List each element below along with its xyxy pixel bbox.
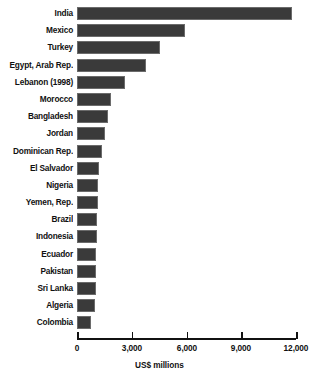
bar-rows: IndiaMexicoTurkeyEgypt, Arab Rep.Lebanon… [0, 7, 319, 334]
bar-row: Morocco [0, 93, 319, 110]
bar [77, 59, 146, 72]
bar-row: Turkey [0, 41, 319, 58]
x-axis-tick-label: 12,000 [284, 343, 309, 353]
bar [77, 76, 125, 89]
plot-area: IndiaMexicoTurkeyEgypt, Arab Rep.Lebanon… [0, 0, 319, 340]
bar-chart: IndiaMexicoTurkeyEgypt, Arab Rep.Lebanon… [0, 0, 319, 380]
bar-row: Ecuador [0, 248, 319, 265]
bar-track [77, 196, 319, 209]
bar [77, 24, 185, 37]
category-label: India [0, 7, 73, 20]
bar [77, 110, 108, 123]
x-axis-tick [241, 332, 243, 339]
category-label: Colombia [0, 316, 73, 329]
bar-row: Indonesia [0, 230, 319, 247]
bar-track [77, 24, 319, 37]
category-label: Brazil [0, 213, 73, 226]
category-label: Lebanon (1998) [0, 76, 73, 89]
x-axis-tick [296, 332, 298, 339]
category-label: Turkey [0, 41, 73, 54]
bar-row: Lebanon (1998) [0, 76, 319, 93]
bar-track [77, 265, 319, 278]
bar-track [77, 127, 319, 140]
x-axis-tick-label: 9,000 [231, 343, 251, 353]
bar [77, 248, 96, 261]
x-axis-tick [187, 332, 189, 339]
bar-track [77, 316, 319, 329]
category-label: Morocco [0, 93, 73, 106]
bar-row: Egypt, Arab Rep. [0, 59, 319, 76]
category-label: Sri Lanka [0, 282, 73, 295]
bar-row: Pakistan [0, 265, 319, 282]
bar [77, 162, 99, 175]
bar-row: Algeria [0, 299, 319, 316]
category-label: Dominican Rep. [0, 145, 73, 158]
bar [77, 282, 96, 295]
category-label: Indonesia [0, 230, 73, 243]
category-label: Yemen, Rep. [0, 196, 73, 209]
bar [77, 7, 292, 20]
category-label: El Salvador [0, 162, 73, 175]
category-label: Algeria [0, 299, 73, 312]
bar-track [77, 59, 319, 72]
bar-row: India [0, 7, 319, 24]
bar-row: Mexico [0, 24, 319, 41]
bar-row: Sri Lanka [0, 282, 319, 299]
category-label: Jordan [0, 127, 73, 140]
bar [77, 316, 91, 329]
bar [77, 93, 111, 106]
category-label: Ecuador [0, 248, 73, 261]
bar-track [77, 7, 319, 20]
bar [77, 230, 97, 243]
bar-track [77, 282, 319, 295]
bar-track [77, 179, 319, 192]
category-label: Bangladesh [0, 110, 73, 123]
bar-row: Dominican Rep. [0, 145, 319, 162]
bar-track [77, 230, 319, 243]
bar-track [77, 41, 319, 54]
bar-row: Jordan [0, 127, 319, 144]
bar [77, 299, 95, 312]
bar-track [77, 76, 319, 89]
x-axis-tick-label: 6,000 [176, 343, 196, 353]
category-label: Egypt, Arab Rep. [0, 59, 73, 72]
bar-track [77, 213, 319, 226]
x-axis-tick-label: 0 [75, 343, 80, 353]
bar [77, 179, 98, 192]
x-axis-tick [132, 332, 134, 339]
category-label: Pakistan [0, 265, 73, 278]
bar-row: El Salvador [0, 162, 319, 179]
x-axis-tick-label: 3,000 [122, 343, 142, 353]
bar [77, 145, 102, 158]
bar [77, 196, 98, 209]
bar-row: Yemen, Rep. [0, 196, 319, 213]
bar [77, 265, 96, 278]
x-axis-tick [77, 332, 79, 339]
bar-track [77, 299, 319, 312]
bar-track [77, 162, 319, 175]
bar-row: Colombia [0, 316, 319, 333]
bar [77, 127, 105, 140]
bar-track [77, 93, 319, 106]
bar-row: Nigeria [0, 179, 319, 196]
bar [77, 213, 97, 226]
bar-track [77, 110, 319, 123]
x-axis-title-text: US$ millions [135, 360, 184, 370]
category-label: Mexico [0, 24, 73, 37]
x-axis-title: US$ millions [0, 360, 319, 370]
bar-row: Bangladesh [0, 110, 319, 127]
bar-track [77, 145, 319, 158]
bar-track [77, 248, 319, 261]
category-label: Nigeria [0, 179, 73, 192]
bar-row: Brazil [0, 213, 319, 230]
bar [77, 41, 160, 54]
